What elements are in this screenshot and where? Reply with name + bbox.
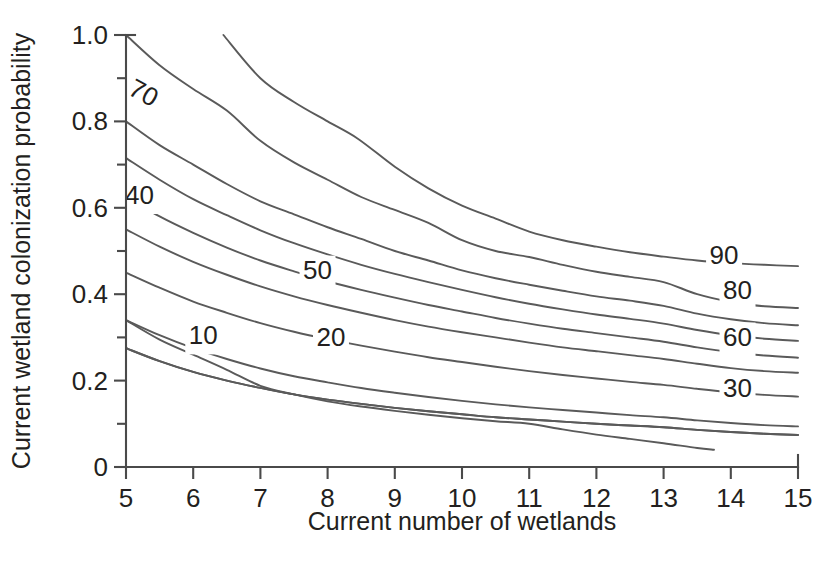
contour-label: 60 <box>723 322 752 352</box>
tick-labels-group: 00.20.40.60.81.056789101112131415 <box>72 20 813 513</box>
contour-label: 90 <box>710 240 739 270</box>
contour-line <box>126 35 798 308</box>
contour-label: 20 <box>316 322 345 352</box>
y-axis-tick-label: 0.2 <box>72 366 108 396</box>
contour-line <box>126 273 798 397</box>
contour-line <box>223 35 798 266</box>
contour-label: 30 <box>723 373 752 403</box>
x-axis-tick-label: 6 <box>186 483 200 513</box>
contour-label: 10 <box>189 320 218 350</box>
y-axis-tick-label: 0.8 <box>72 106 108 136</box>
contour-label: 50 <box>303 255 332 285</box>
axes-group <box>114 35 798 479</box>
contour-lines-group: 908070605040302010 <box>119 35 798 450</box>
x-axis-tick-label: 14 <box>716 483 745 513</box>
y-axis-tick-label: 1.0 <box>72 20 108 50</box>
y-axis-tick-label: 0.4 <box>72 279 108 309</box>
contour-line <box>126 320 798 426</box>
contour-line <box>126 229 798 372</box>
clipped-figure-title <box>0 0 835 2</box>
y-axis-tick-label: 0.6 <box>72 193 108 223</box>
contour-label: 40 <box>125 180 154 210</box>
x-axis-tick-label: 15 <box>784 483 813 513</box>
contour-chart-figure: 908070605040302010 00.20.40.60.81.056789… <box>0 0 835 564</box>
y-axis-title: Current wetland colonization probability <box>7 32 35 469</box>
x-axis-tick-label: 13 <box>649 483 678 513</box>
y-axis-tick-label: 0 <box>94 452 108 482</box>
contour-line <box>126 197 798 358</box>
x-axis-tick-label: 5 <box>119 483 133 513</box>
contour-label: 80 <box>723 275 752 305</box>
x-axis-tick-label: 7 <box>253 483 267 513</box>
chart-canvas: 908070605040302010 00.20.40.60.81.056789… <box>0 0 835 564</box>
x-axis-title: Current number of wetlands <box>308 507 616 535</box>
